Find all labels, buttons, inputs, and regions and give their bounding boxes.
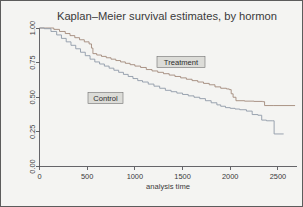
x-tick-label: 2000 bbox=[222, 172, 238, 181]
x-tick-marks: 05001000150020002500 bbox=[37, 167, 286, 181]
y-tick-label: 1.00 bbox=[28, 21, 37, 35]
kaplan-meier-chart: Kaplan–Meier survival estimates, by horm… bbox=[1, 1, 303, 207]
chart-title: Kaplan–Meier survival estimates, by horm… bbox=[57, 10, 277, 22]
y-tick-label: 0.50 bbox=[28, 90, 37, 104]
survival-curve-control bbox=[40, 28, 284, 134]
x-tick-label: 0 bbox=[37, 172, 41, 181]
x-axis-title: analysis time bbox=[146, 182, 190, 191]
figure-container: Kaplan–Meier survival estimates, by horm… bbox=[0, 0, 303, 207]
y-tick-label: 0.25 bbox=[28, 125, 37, 139]
x-tick-label: 500 bbox=[81, 172, 93, 181]
treatment-annotation-label: Treatment bbox=[164, 58, 199, 67]
y-tick-label: 0.75 bbox=[28, 55, 37, 69]
control-annotation-label: Control bbox=[93, 94, 118, 103]
y-tick-label: 0.00 bbox=[28, 159, 37, 173]
y-tick-marks: 0.000.250.500.751.00 bbox=[28, 21, 39, 174]
survival-curves bbox=[40, 28, 296, 134]
x-tick-label: 1000 bbox=[127, 172, 143, 181]
control-annotation: Control bbox=[88, 93, 123, 104]
treatment-annotation: Treatment bbox=[157, 57, 205, 68]
x-tick-label: 2500 bbox=[270, 172, 286, 181]
x-tick-label: 1500 bbox=[174, 172, 190, 181]
